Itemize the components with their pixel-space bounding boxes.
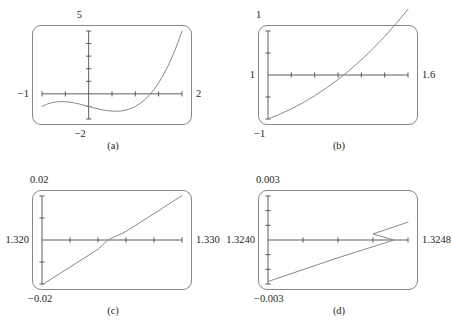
- curve-b-1: [268, 9, 408, 119]
- axis-label-bottom-c: −0.02: [28, 293, 52, 304]
- axis-label-right-a: 2: [196, 88, 201, 99]
- axes-b: [265, 31, 408, 119]
- axes-d: [265, 196, 408, 284]
- axis-label-top-b: 1: [256, 9, 261, 20]
- panel-caption-b: (b): [226, 140, 452, 151]
- panel-caption-d: (d): [226, 305, 452, 316]
- curve-a-1: [42, 31, 182, 111]
- axis-label-top-a: 5: [77, 9, 82, 20]
- axis-label-left-b: 1: [250, 69, 255, 80]
- axis-label-top-d: 0.003: [256, 174, 280, 185]
- axis-label-bottom-b: −1: [254, 128, 265, 139]
- panel-caption-a: (a): [0, 140, 226, 151]
- plot-area-a: [32, 25, 192, 125]
- panel-a: 5−2−12(a): [0, 0, 226, 165]
- panel-d: 0.003−0.0031.32401.3248(d): [226, 165, 452, 330]
- panel-caption-c: (c): [0, 305, 226, 316]
- axes-a: [42, 31, 182, 119]
- axis-label-left-a: −1: [18, 88, 29, 99]
- axis-label-top-c: 0.02: [30, 174, 48, 185]
- figure-container: 5−2−12(a)1−111.6(b)0.02−0.021.3201.330(c…: [0, 0, 452, 330]
- plot-area-d: [258, 190, 418, 290]
- axis-label-right-c: 1.330: [196, 234, 220, 245]
- axis-label-bottom-a: −2: [75, 128, 86, 139]
- panel-b: 1−111.6(b): [226, 0, 452, 165]
- plot-area-c: [32, 190, 192, 290]
- axis-label-right-d: 1.3248: [422, 234, 451, 245]
- panel-c: 0.02−0.021.3201.330(c): [0, 165, 226, 330]
- plot-area-b: [258, 25, 418, 125]
- axis-label-left-d: 1.3240: [226, 234, 255, 245]
- axis-label-right-b: 1.6: [422, 69, 435, 80]
- axis-label-left-c: 1.320: [5, 234, 29, 245]
- curve-d-1: [268, 222, 408, 281]
- axis-label-bottom-d: −0.003: [254, 293, 284, 304]
